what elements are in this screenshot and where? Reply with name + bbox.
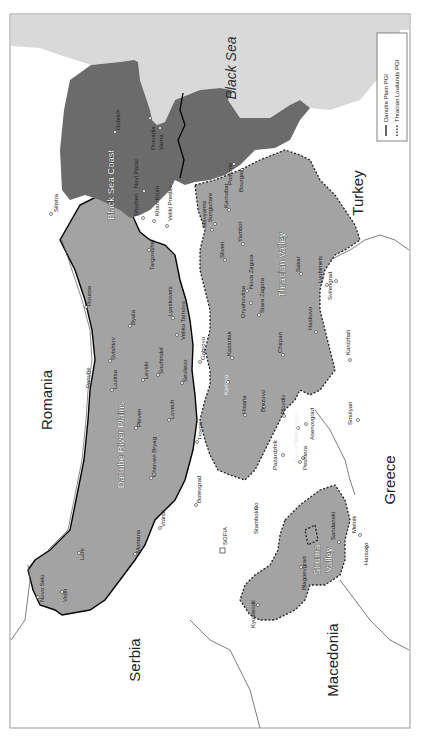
country-macedonia: Macedonia [324, 623, 341, 697]
town-silistra: Silistra [53, 193, 59, 212]
legend-danube-pgi: Danube Plain PGI [383, 74, 389, 122]
town-vratsa: Vratsa [160, 509, 166, 527]
town-rousse: Rousse [86, 285, 92, 306]
town-yambol: Yambol [237, 222, 243, 242]
town-pomorie: Pomorie [227, 162, 233, 185]
legend-box [377, 33, 407, 141]
town-gabrovo: Gabrovo [200, 336, 206, 360]
town-byala: Byala [130, 309, 136, 325]
town-svilengrad: Svilengrad [327, 272, 333, 300]
town-kazanlak: Kazanlak [226, 330, 232, 356]
town-brestovitsa: Brestovitsa [293, 412, 299, 442]
pgi-map: Romania Serbia Macedonia Greece Turkey B… [0, 0, 422, 742]
town-dobrich: Dobrich [115, 109, 121, 130]
region-label-struma-1: Struma [311, 544, 322, 575]
town-chirpan: Chirpan [277, 332, 283, 353]
town-stambolovo: Stambolovo [253, 502, 259, 534]
country-serbia: Serbia [126, 638, 143, 682]
town-asenovgrad: Asenovgrad [309, 408, 315, 440]
town-lom: Lom [79, 548, 85, 560]
town-hisaria: Hisaria [241, 395, 247, 414]
town-sakar: Sakar [295, 256, 301, 272]
town-svishtov: Svishtov [110, 337, 116, 360]
town-karnobat: Karnobat [223, 183, 229, 208]
town-targovishte: Targovishte [149, 239, 155, 270]
capital-square-icon [220, 548, 225, 553]
sea-black-sea: Black Sea [223, 36, 239, 99]
town-lyubimets: Lyubimets [317, 256, 323, 283]
town-vidin: Vidin [62, 589, 68, 602]
town-lovech: Lovech [169, 400, 175, 419]
region-label-danube: Danube River Plains [115, 401, 126, 488]
town-nova-zagora: Nova Zagora [248, 254, 254, 289]
river-danube-label: Danube [85, 367, 91, 389]
town-veliki-preslav: Veliki Preslav [167, 185, 173, 221]
country-romania: Romania [38, 369, 55, 430]
town-smolyan: Smolyan [347, 402, 353, 425]
town-levski: Levski [143, 362, 149, 379]
town-cherven-bryag: Cherven Bryag [151, 437, 157, 477]
town-pleven: Pleven [136, 409, 142, 427]
country-greece: Greece [381, 455, 398, 504]
town-novo-selo: Novo Selo [39, 574, 45, 602]
region-label-thrace: Thracian Valley [276, 232, 287, 297]
legend: Danube Plain PGI Thracian Lowlands PGI [377, 33, 407, 141]
region-label-struma-2: Valley [323, 547, 334, 572]
town-souhindol: Souhindol [158, 347, 164, 374]
legend-thracian-pgi: Thracian Lowlands PGI [394, 59, 400, 122]
town-bourgas: Bourgas [238, 170, 244, 192]
region-label-coast: Black Sea Coast [105, 150, 116, 221]
town-sliven: Sliven [219, 242, 225, 258]
town-sandanski: Sandanski [330, 512, 336, 540]
country-turkey: Turkey [349, 170, 366, 216]
town-varna: Varna [158, 134, 164, 150]
town-plovdiv: Plovdiv [280, 395, 286, 414]
town-sungurlare: Sungurlare [207, 192, 213, 222]
town-blagoevgrad: Blagoevgrad [301, 556, 307, 590]
town-stara-zagora: Stara Zagora [259, 277, 265, 313]
town-botevgrad: Botevgrad [196, 476, 202, 503]
town-shumen: Shumen [133, 194, 139, 216]
town-sevlievo: Sevlievo [182, 359, 188, 382]
capital-sofia: SOFIA [222, 527, 228, 545]
town-troyan: Troyan [197, 422, 203, 440]
town-melnik: Melnik [351, 515, 357, 533]
town-kyustendil: Kyustendil [250, 600, 256, 628]
town-montana: Montana [135, 529, 141, 553]
town-kardzhali: Kardzhali [345, 330, 351, 355]
town-karlovo: Karlovo [223, 374, 229, 395]
town-peshtera: Peshtera [302, 445, 308, 470]
town-lozitsa: Lozitsa [112, 369, 118, 389]
town-veliko-tarnovo: Veliko Tarnovo [180, 300, 186, 340]
town-provadia: Provadia [150, 126, 156, 150]
town-novi-pazar: Novi Pazar [133, 159, 139, 188]
town-slavyantsi: Slavyantsi [201, 201, 207, 228]
town-oryahovitsa: Oryahovitsa [240, 285, 246, 318]
town-lyaskovets: Lyaskovets [167, 286, 173, 316]
town-haskovo: Haskovo [307, 306, 313, 330]
town-brezovo: Brezovo [260, 389, 266, 412]
town-harsovo: Harsovo [363, 542, 369, 565]
town-pazardzhik: Pazardzhik [272, 439, 278, 470]
town-khan-krum: Khan Krum [154, 186, 160, 216]
